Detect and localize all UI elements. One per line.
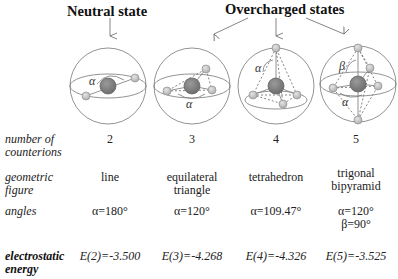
count-n4: 4 (231, 133, 321, 146)
svg-text:β: β (338, 59, 345, 73)
arrow-icons (110, 18, 344, 36)
svg-text:α: α (342, 95, 349, 109)
angles-n4: α=109.47° (231, 205, 321, 218)
svg-text:α: α (89, 74, 96, 88)
sphere-n3: α (154, 48, 230, 124)
energy-n3: E(3)=-4.268 (147, 250, 237, 263)
energy-n5: E(5)=-3.525 (311, 250, 398, 263)
count-n3: 3 (147, 133, 237, 146)
count-n2: 2 (65, 133, 155, 146)
angles-n2: α=180° (65, 205, 155, 218)
sphere-n4: α (238, 44, 314, 124)
label-angles: angles (5, 205, 36, 218)
figure-n4: tetrahedron (231, 171, 321, 184)
energy-n4: E(4)=-4.326 (231, 250, 321, 263)
sphere-n5: β α (320, 44, 396, 124)
energy-n2: E(2)=-3.500 (65, 250, 155, 263)
count-n5: 5 (311, 133, 398, 146)
svg-text:α: α (255, 61, 262, 75)
angles-n5: α=120° β=90° (311, 205, 398, 231)
svg-text:α: α (186, 97, 193, 111)
sphere-n2: α (70, 48, 146, 124)
figure-n3: equilateral triangle (147, 171, 237, 197)
label-electrostatic-energy: electrostatic energy (5, 250, 64, 276)
label-number-of-counterions: number of counterions (5, 133, 62, 159)
angles-n3: α=120° (147, 205, 237, 218)
figure-n5: trigonal bipyramid (311, 167, 398, 193)
label-geometric-figure: geometric figure (5, 171, 53, 197)
figure-n2: line (65, 171, 155, 184)
